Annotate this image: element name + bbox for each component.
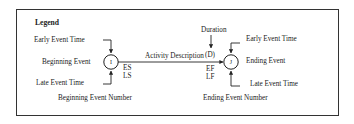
legend-title: Legend [35,18,60,27]
ending-event-node: J [224,55,238,69]
duration-label: Duration [201,26,227,34]
early-start-label: ES [123,64,131,72]
beginning-late-time-label: Late Event Time [36,79,84,87]
beginning-early-time-label: Early Event Time [34,36,85,44]
beginning-node-symbol: I [110,59,112,65]
ending-event-number-label: Ending Event Number [203,94,268,102]
beginning-event-number-label: Beginning Event Number [58,94,132,102]
late-start-label: LS [123,72,131,80]
ending-early-time-label: Early Event Time [246,35,297,43]
legend-diagram: Legend Early Event Time Beginning Event … [0,0,354,124]
beginning-event-label: Beginning Event [42,58,91,66]
beginning-event-node: I [104,55,118,69]
ending-event-label: Ending Event [246,57,285,65]
early-finish-label: EF [206,65,214,73]
activity-description-label: Activity Description [145,52,204,60]
late-finish-label: LF [206,73,214,81]
duration-symbol: (D) [205,51,216,59]
ending-late-time-label: Late Event Time [250,80,298,88]
